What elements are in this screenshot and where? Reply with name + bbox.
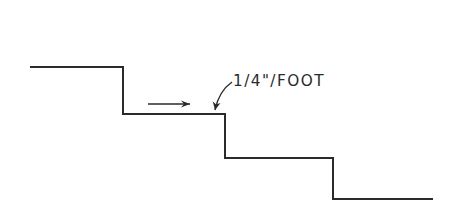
- stepped-profile-diagram: [0, 0, 455, 218]
- slope-label: 1/4"/FOOT: [233, 72, 325, 90]
- diagram-canvas: 1/4"/FOOT: [0, 0, 455, 218]
- stepped-profile-line: [30, 67, 433, 199]
- leader-arrow-icon: [215, 82, 232, 110]
